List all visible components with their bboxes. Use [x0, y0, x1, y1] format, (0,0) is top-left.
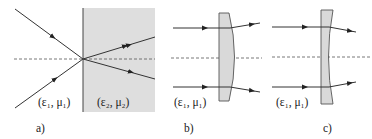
- ray-upper-out: [230, 23, 260, 28]
- caption-a: a): [36, 122, 45, 135]
- medium-1-label: (ε₁, μ₁): [38, 96, 71, 109]
- panel-a: (ε₁, μ₁) (ε₂, μ₂) a): [14, 8, 155, 135]
- medium-2-label: (ε₂, μ₂): [97, 96, 130, 109]
- caption-c: c): [323, 122, 332, 135]
- panel-c: (ε₁, μ₁) c): [272, 10, 372, 135]
- concave-lens: [321, 10, 333, 104]
- medium-label-b: (ε₁, μ₁): [174, 96, 207, 109]
- medium-label-c: (ε₁, μ₁): [276, 96, 309, 109]
- ray-upper-out: [329, 27, 356, 32]
- ray-lower-out: [329, 82, 356, 87]
- incident-ray-upper: [15, 9, 83, 59]
- caption-b: b): [184, 122, 194, 135]
- panel-b: (ε₁, μ₁) b): [171, 13, 262, 135]
- ray-lower-out: [230, 87, 260, 92]
- diagram-canvas: (ε₁, μ₁) (ε₂, μ₂) a) (ε₁, μ₁) b) (ε₁, μ₁…: [0, 0, 372, 139]
